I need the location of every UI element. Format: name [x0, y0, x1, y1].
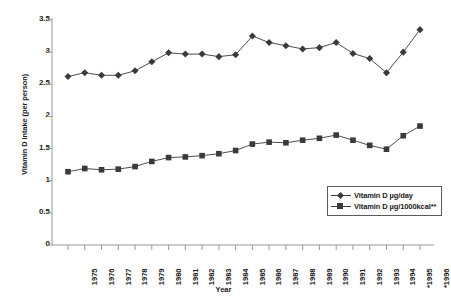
data-point	[299, 45, 306, 52]
data-point	[417, 123, 423, 129]
data-point	[300, 137, 306, 143]
data-point	[183, 154, 189, 160]
diamond-marker-icon	[331, 191, 351, 201]
legend-item-vitamin-d-per-day: Vitamin D µg/day	[331, 190, 436, 201]
data-point	[316, 44, 323, 51]
data-point	[99, 167, 105, 173]
data-point	[199, 51, 206, 58]
data-point	[266, 139, 272, 145]
data-point	[367, 143, 373, 149]
data-point	[282, 42, 289, 49]
data-point	[283, 140, 289, 146]
data-point	[350, 137, 356, 143]
data-point	[349, 50, 356, 57]
data-point	[132, 67, 139, 74]
square-marker-icon	[331, 202, 351, 212]
data-point	[115, 72, 122, 79]
data-point	[333, 39, 340, 46]
data-point	[199, 153, 205, 159]
data-point	[148, 58, 155, 65]
data-point	[233, 148, 239, 154]
data-point	[82, 166, 88, 172]
data-point	[333, 132, 339, 138]
data-point	[98, 72, 105, 79]
data-point	[149, 159, 155, 165]
data-point	[384, 146, 390, 152]
data-point	[81, 69, 88, 76]
data-point	[64, 73, 71, 80]
chart-legend: Vitamin D µg/day Vitamin D µg/1000kcal**	[327, 186, 442, 216]
data-point	[115, 166, 121, 172]
data-point	[65, 169, 71, 175]
legend-item-vitamin-d-per-1000kcal: Vitamin D µg/1000kcal**	[331, 201, 436, 212]
data-point	[266, 39, 273, 46]
data-point	[165, 49, 172, 56]
data-point	[182, 51, 189, 58]
data-point	[400, 133, 406, 139]
legend-label-series-0: Vitamin D µg/day	[354, 191, 413, 200]
data-point	[317, 135, 323, 141]
data-point	[132, 164, 138, 170]
data-point	[216, 151, 222, 157]
data-point	[416, 26, 423, 33]
data-point	[166, 155, 172, 161]
data-point	[215, 53, 222, 60]
data-point	[250, 141, 256, 147]
legend-label-series-1: Vitamin D µg/1000kcal**	[354, 202, 436, 211]
